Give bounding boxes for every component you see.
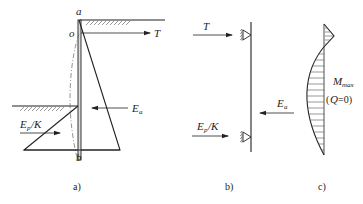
active-force-label-b: E a	[276, 97, 288, 111]
svg-text:E: E	[19, 118, 27, 130]
svg-text:Q: Q	[330, 93, 338, 105]
caption-b: b)	[225, 181, 233, 193]
point-a-label: a	[76, 5, 82, 17]
point-b-label: b	[76, 151, 82, 163]
ground-hatch-top	[86, 21, 130, 25]
active-force-label: E a	[131, 102, 143, 116]
passive-force-label: E p /K	[19, 118, 42, 132]
svg-text:=0): =0)	[338, 94, 352, 106]
figure-a: a o b T E a E p /K a)	[12, 5, 165, 193]
upper-support-icon	[240, 29, 251, 41]
svg-text:E: E	[276, 97, 284, 109]
svg-text:a: a	[284, 103, 288, 111]
svg-text:E: E	[196, 120, 204, 132]
shear-zero-condition: ( Q =0)	[326, 93, 352, 106]
svg-text:a: a	[139, 108, 143, 116]
ground-hatch-excavation	[20, 107, 64, 111]
max-moment-label: M max	[332, 75, 355, 89]
lower-support-icon	[240, 131, 251, 143]
moment-hatch	[307, 28, 333, 150]
anchor-force-label-b: T	[203, 20, 210, 32]
point-o-label: o	[69, 27, 75, 39]
figure-c: M max ( Q =0) c)	[307, 24, 355, 193]
passive-force-label-b: E p /K	[196, 120, 219, 134]
svg-text:/K: /K	[30, 118, 42, 130]
diagram-canvas: a o b T E a E p /K a)	[0, 0, 363, 204]
caption-c: c)	[318, 181, 326, 193]
figure-b: T E a E p /K b)	[192, 20, 294, 193]
svg-text:E: E	[131, 102, 139, 114]
svg-text:/K: /K	[207, 120, 219, 132]
caption-a: a)	[73, 181, 81, 193]
sheet-pile-wall	[78, 20, 81, 160]
anchor-force-label: T	[154, 27, 161, 39]
svg-text:max: max	[342, 81, 355, 89]
active-pressure-diagram	[79, 20, 120, 150]
moment-main-lobe	[307, 48, 324, 155]
